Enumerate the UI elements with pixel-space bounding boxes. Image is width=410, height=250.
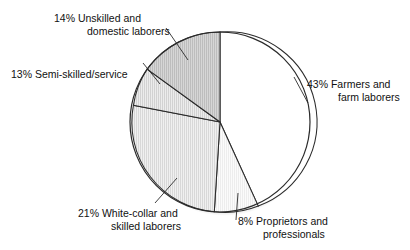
pie-slice-white-collar[interactable] <box>132 105 220 212</box>
pie-label-farmers-line1: Farmers and <box>331 78 391 91</box>
pie-label-white-collar-percent: 21% <box>78 207 99 220</box>
pie-label-proprietors: 8% Proprietors and professionals <box>238 215 328 240</box>
pie-label-white-collar-line2: skilled laborers <box>78 220 181 233</box>
pie-label-farmers: 43% Farmers and farm laborers <box>307 78 400 103</box>
pie-label-farmers-percent: 43% <box>307 78 328 91</box>
pie-chart-graphic <box>0 0 410 250</box>
pie-label-unskilled-line1: Unskilled and <box>78 12 141 25</box>
pie-label-unskilled-percent: 14% <box>54 12 75 25</box>
pie-label-white-collar: 21% White-collar and skilled laborers <box>78 207 181 232</box>
pie-label-semi-skilled-line1: Semi-skilled/service <box>35 68 128 81</box>
pie-chart-figure: 14% Unskilled and domestic laborers 13% … <box>0 0 410 250</box>
pie-label-unskilled: 14% Unskilled and domestic laborers <box>54 12 170 37</box>
pie-label-semi-skilled-percent: 13% <box>11 68 32 81</box>
pie-label-unskilled-line2: domestic laborers <box>54 25 170 38</box>
pie-label-proprietors-line1: Proprietors and <box>256 215 328 228</box>
pie-label-proprietors-percent: 8% <box>238 215 253 228</box>
pie-label-white-collar-line1: White-collar and <box>102 207 178 220</box>
pie-label-farmers-line2: farm laborers <box>307 91 400 104</box>
pie-label-semi-skilled: 13% Semi-skilled/service <box>11 68 128 81</box>
pie-label-proprietors-line2: professionals <box>238 228 328 241</box>
